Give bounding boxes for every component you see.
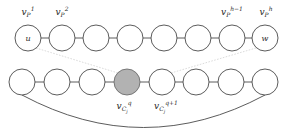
- path-node-5[interactable]: [151, 25, 177, 51]
- path-node-6[interactable]: [185, 25, 211, 51]
- path-node-1-label: vP1: [22, 5, 35, 18]
- label-sup: h−1: [230, 5, 243, 12]
- path-node-8-label: vPh: [259, 5, 272, 18]
- cycle-node-2[interactable]: [44, 69, 70, 95]
- path-node-3[interactable]: [83, 25, 109, 51]
- label-sup: 2: [64, 5, 69, 12]
- path-node-1-inner-label: u: [25, 34, 30, 43]
- path-node-8-inner-label: w: [262, 34, 269, 43]
- label-sub: P: [26, 11, 32, 18]
- path-node-7[interactable]: [219, 25, 245, 51]
- label-sub: P: [264, 11, 270, 18]
- cycle-node-6[interactable]: [183, 69, 209, 95]
- label-sup: 1: [31, 5, 35, 12]
- path-node-2-label: vP2: [56, 5, 69, 18]
- label-subsub: j: [163, 109, 166, 114]
- label-sup: q+1: [165, 99, 178, 107]
- path-node-7-label: vPh−1: [221, 5, 243, 18]
- label-subsub: j: [125, 109, 128, 114]
- cycle-node-4-shaded[interactable]: [114, 69, 140, 95]
- cycle-node-5-label: vCjq+1: [154, 99, 178, 114]
- cycle-closing-arc: [22, 95, 265, 128]
- path-node-2[interactable]: [49, 25, 75, 51]
- graph-canvas: u w vP1 vP2 vPh−1 vPh vCjq vCjq+1: [0, 0, 288, 131]
- cross-link-u-to-vq: [36, 48, 118, 73]
- cycle-node-5[interactable]: [149, 69, 175, 95]
- cycle-node-3[interactable]: [79, 69, 105, 95]
- cycle-node-4-label: vCjq: [117, 99, 132, 114]
- label-sup: q: [128, 99, 132, 107]
- cycle-node-7[interactable]: [218, 69, 244, 95]
- cycle-node-8[interactable]: [252, 69, 278, 95]
- graph-diagram: u w vP1 vP2 vPh−1 vPh vCjq vCjq+1: [0, 0, 288, 131]
- path-node-4[interactable]: [117, 25, 143, 51]
- cycle-node-1[interactable]: [9, 69, 35, 95]
- label-sub: P: [225, 11, 231, 18]
- label-sup: h: [269, 5, 273, 12]
- label-sub: P: [60, 11, 66, 18]
- cross-link-vq1-to-w: [171, 48, 256, 73]
